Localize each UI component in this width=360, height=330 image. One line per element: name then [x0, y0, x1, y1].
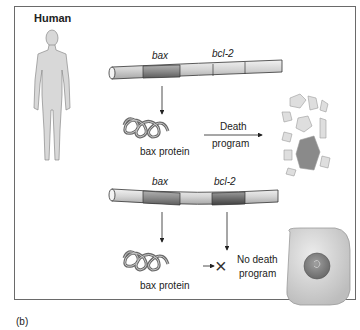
gene-label-bcl2-bottom: bcl-2 — [214, 176, 236, 187]
dna-strand-top — [109, 60, 282, 79]
protein-label-top: bax protein — [140, 146, 189, 157]
no-death-program-label-line1: No death — [237, 254, 278, 265]
organism-label: Human — [34, 12, 71, 24]
death-program-label-line2: program — [212, 138, 249, 149]
healthy-cell-icon — [287, 228, 350, 305]
dna-strand-bottom — [109, 189, 278, 205]
gene-label-bax-bottom: bax — [152, 176, 168, 187]
fragmented-cell-icon — [282, 94, 330, 176]
panel-label: (b) — [16, 316, 28, 327]
protein-label-bottom: bax protein — [140, 280, 189, 291]
block-x-icon: × — [215, 255, 227, 278]
gene-label-bcl2-top: bcl-2 — [212, 48, 234, 59]
human-figure-icon — [34, 30, 70, 160]
death-program-label-line1: Death — [220, 121, 247, 132]
no-death-program-label-line2: program — [239, 268, 276, 279]
gene-label-bax-top: bax — [152, 50, 168, 61]
